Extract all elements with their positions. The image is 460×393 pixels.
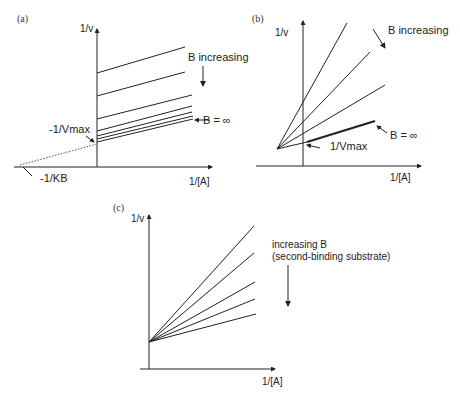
panel-b-infinity-pointer [377,126,387,133]
panel-b-vmax-pointer [307,145,320,148]
panel-c-line-4 [149,299,255,342]
panel-b-line-infinity [307,121,375,142]
panel-a [14,29,212,176]
panel-a-kb-label: -1/KB [40,173,68,184]
panel-a-infinity-label: B = ∞ [203,115,231,126]
panel-c-y-label: 1/v [131,214,144,224]
panel-c [140,215,288,369]
panel-a-line-2 [97,72,185,96]
panel-c-tag: (c) [113,202,124,213]
panel-b-infinity-label: B = ∞ [390,130,418,141]
panel-a-y-label: 1/v [80,24,93,34]
panel-a-increasing-label: B increasing [188,52,249,63]
panel-b-y-label: 1/v [275,28,288,38]
panel-b-increasing-arrow [373,29,385,48]
panel-c-x-label: 1/[A] [262,377,283,387]
panel-a-line-1 [97,47,185,73]
panel-c-line-3 [149,282,255,342]
panel-a-vmax-label: -1/Vmax [49,124,90,135]
panel-a-line-7 [97,119,193,142]
panel-b-vmax-label: 1/Vmax [330,141,367,152]
panel-c-substrate-label: (second-binding substrate) [272,252,390,262]
panel-b-line-1 [277,23,347,149]
panel-b-line-2 [277,52,370,149]
panel-a-kb-pointer [23,167,32,176]
panel-c-increasing-label: increasing B [272,240,327,250]
panel-a-extrapolation [20,144,97,165]
panel-c-line-1 [149,226,254,342]
panel-b-increasing-label: B increasing [388,25,449,36]
panel-b-tag: (b) [252,13,264,24]
panel-a-tag: (a) [17,13,28,24]
panel-a-x-label: 1/[A] [189,177,210,187]
panel-a-vmax-pointer [86,136,94,142]
panel-b-x-label: 1/[A] [390,173,411,183]
